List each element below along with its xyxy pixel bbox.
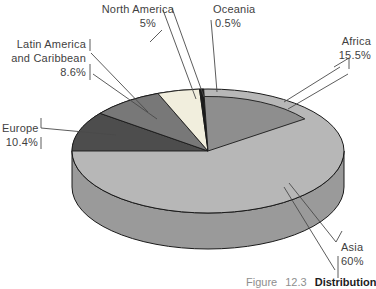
caption-figure-number: 12.3 (285, 276, 306, 288)
pie-3d-body (72, 89, 344, 249)
label-latin-america-value: 8.6% (0, 65, 86, 79)
label-europe: Europe 10.4% (2, 121, 38, 149)
caption-figure-word: Figure (246, 276, 277, 288)
label-asia: Asia 60% (341, 240, 364, 268)
figure-caption: Figure 12.3 Distribution (246, 276, 376, 289)
bracket-north-america (150, 30, 162, 42)
leader-africa-1 (284, 67, 340, 102)
label-latin-america-name2: and Caribbean (0, 51, 86, 65)
label-latin-america-name1: Latin America (17, 38, 86, 50)
label-north-america-value: 5% (78, 16, 174, 30)
label-north-america: North America 5% (78, 2, 174, 30)
label-africa-value: 15.5% (330, 48, 371, 62)
leader-north-america-2 (172, 8, 204, 97)
label-asia-value: 60% (341, 254, 364, 268)
label-north-america-name: North America (102, 3, 174, 15)
label-oceania-value: 0.5% (213, 16, 255, 30)
label-africa-name: Africa (342, 35, 371, 47)
label-europe-name: Europe (2, 122, 39, 134)
label-oceania-name: Oceania (213, 3, 255, 15)
label-asia-name: Asia (341, 241, 363, 253)
leader-latin-america-1 (91, 53, 148, 112)
leader-africa-2 (288, 74, 348, 109)
label-latin-america: Latin America and Caribbean 8.6% (0, 37, 86, 79)
label-oceania: Oceania 0.5% (213, 2, 255, 30)
leader-oceania (211, 20, 217, 92)
caption-title: Distribution (315, 276, 376, 288)
label-europe-value: 10.4% (2, 135, 38, 149)
label-africa: Africa 15.5% (330, 34, 371, 62)
